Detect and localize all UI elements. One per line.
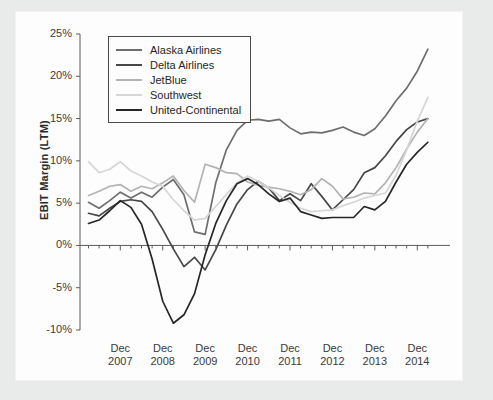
x-tick-month: Dec bbox=[153, 342, 173, 354]
x-tick-month: Dec bbox=[323, 342, 343, 354]
y-tick-label: 25% bbox=[30, 27, 72, 39]
x-tick-month: Dec bbox=[365, 342, 385, 354]
legend-item: Southwest bbox=[116, 87, 241, 102]
y-tick-label: 15% bbox=[30, 112, 72, 124]
legend-color-swatch bbox=[116, 109, 142, 111]
chart-legend: Alaska AirlinesDelta AirlinesJetBlueSout… bbox=[108, 36, 251, 123]
legend-label: JetBlue bbox=[150, 74, 187, 86]
x-tick-month: Dec bbox=[195, 342, 215, 354]
legend-label: Delta Airlines bbox=[150, 59, 214, 71]
legend-item: Delta Airlines bbox=[116, 57, 241, 72]
x-tick-label: Dec2014 bbox=[391, 342, 443, 368]
x-tick-month: Dec bbox=[280, 342, 300, 354]
x-tick-year: 2010 bbox=[235, 355, 259, 367]
y-tick-label: -10% bbox=[30, 323, 72, 335]
legend-item: Alaska Airlines bbox=[116, 42, 241, 57]
series-line bbox=[88, 119, 427, 203]
legend-color-swatch bbox=[116, 64, 142, 66]
x-tick-month: Dec bbox=[238, 342, 258, 354]
x-tick-year: 2011 bbox=[278, 355, 302, 367]
legend-color-swatch bbox=[116, 49, 142, 51]
legend-label: United-Continental bbox=[150, 104, 241, 116]
y-tick-label: 0% bbox=[30, 238, 72, 250]
x-tick-month: Dec bbox=[111, 342, 131, 354]
legend-color-swatch bbox=[116, 79, 142, 81]
legend-label: Southwest bbox=[150, 89, 201, 101]
legend-label: Alaska Airlines bbox=[150, 44, 222, 56]
x-tick-year: 2013 bbox=[363, 355, 387, 367]
y-tick-label: 5% bbox=[30, 196, 72, 208]
y-tick-label: 20% bbox=[30, 69, 72, 81]
legend-item: JetBlue bbox=[116, 72, 241, 87]
x-tick-year: 2014 bbox=[405, 355, 429, 367]
chart-figure: EBIT Margin (LTM) 25%20%15%10%5%0%-5%-10… bbox=[16, 12, 462, 380]
x-tick-year: 2012 bbox=[320, 355, 344, 367]
x-tick-year: 2008 bbox=[150, 355, 174, 367]
y-tick-label: -5% bbox=[30, 281, 72, 293]
page-background: EBIT Margin (LTM) 25%20%15%10%5%0%-5%-10… bbox=[0, 0, 493, 400]
legend-color-swatch bbox=[116, 94, 142, 96]
x-tick-month: Dec bbox=[407, 342, 427, 354]
legend-item: United-Continental bbox=[116, 102, 241, 117]
chart-card: EBIT Margin (LTM) 25%20%15%10%5%0%-5%-10… bbox=[16, 12, 462, 380]
x-tick-year: 2007 bbox=[108, 355, 132, 367]
series-line bbox=[88, 142, 427, 323]
x-tick-year: 2009 bbox=[193, 355, 217, 367]
y-tick-label: 10% bbox=[30, 154, 72, 166]
